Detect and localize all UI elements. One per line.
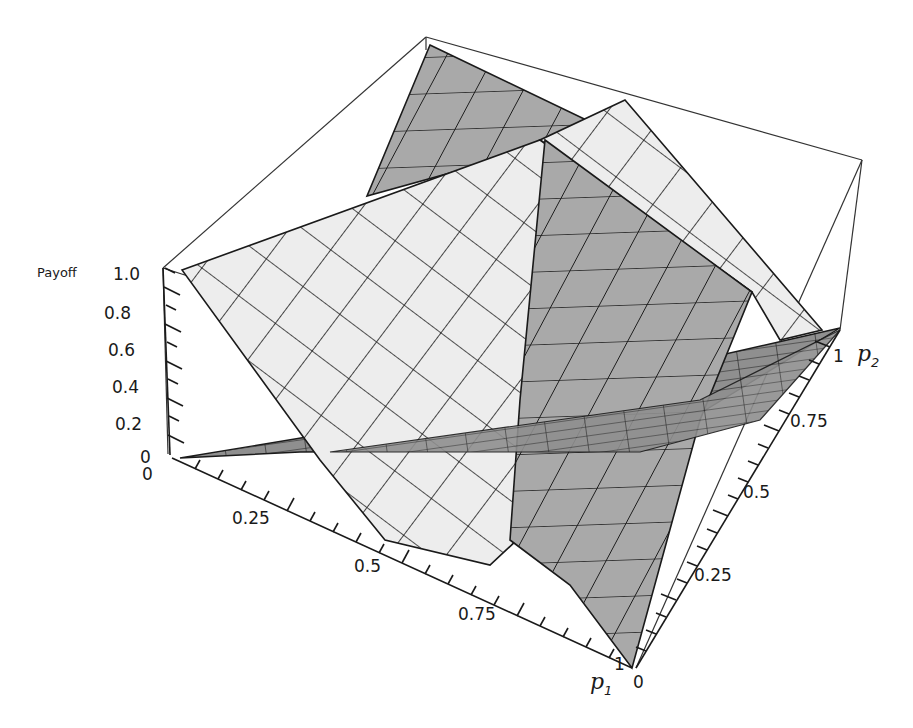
z-tick-label: 0.6 [108,340,135,360]
p2-tick-label: 0.5 [743,482,770,502]
p1-tick-label: 0.5 [354,556,381,576]
p1-tick-label: 0.75 [458,604,496,624]
p1-axis-title: p1 [590,669,612,698]
z-axis-title: Payoff [37,265,78,280]
p1-tick-label: 0.25 [232,508,270,528]
p2-tick-label: 0.75 [790,411,828,431]
z-tick-label: 1.0 [113,264,140,284]
p1-tick-label: 0 [142,464,153,484]
z-axis [163,268,184,455]
z-tick-label: 0.4 [112,377,139,397]
p2-tick-label: 1 [833,346,844,366]
p2-axis-title: p2 [857,341,879,370]
p1-tick-label: 1 [614,654,625,674]
z-tick-label: 0.2 [115,414,142,434]
z-tick-label: 0.8 [104,303,131,323]
p2-tick-label: 0 [633,672,644,692]
payoff-surface-plot: Payoff 1.0 0.8 0.6 0.4 0.2 0 0 0.25 0.5 … [0,0,913,728]
p2-tick-label: 0.25 [694,565,732,585]
